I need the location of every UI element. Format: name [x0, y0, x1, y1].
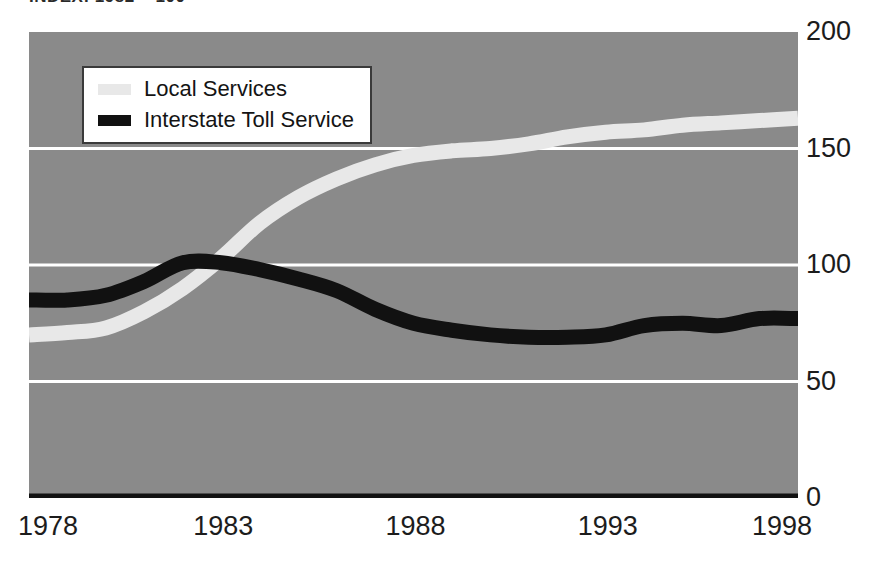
legend-item-interstate-toll-service: Interstate Toll Service — [98, 107, 354, 133]
y-tick-label-50: 50 — [806, 368, 836, 395]
series-line-interstate-toll-service — [29, 261, 798, 338]
legend-label-interstate-toll-service: Interstate Toll Service — [144, 109, 354, 131]
legend-swatch-interstate-toll-service — [98, 115, 131, 126]
y-tick-label-0: 0 — [806, 484, 821, 511]
x-tick-label-1993: 1993 — [578, 513, 638, 540]
x-axis-labels: 19781983198819931998 — [0, 513, 880, 553]
y-tick-label-200: 200 — [806, 18, 851, 45]
x-tick-label-1978: 1978 — [18, 513, 78, 540]
x-tick-label-1988: 1988 — [386, 513, 446, 540]
y-tick-label-100: 100 — [806, 251, 851, 278]
legend-item-local-services: Local Services — [98, 76, 354, 102]
series-group — [29, 118, 798, 337]
x-tick-label-1983: 1983 — [193, 513, 253, 540]
y-tick-label-150: 150 — [806, 135, 851, 162]
series-line-local-services — [29, 118, 798, 335]
chart-title: INDEX: 1982 = 100 — [29, 0, 185, 7]
chart-legend: Local Services Interstate Toll Service — [82, 66, 372, 144]
y-axis-labels: 200150100500 — [806, 0, 880, 561]
x-tick-label-1998: 1998 — [752, 513, 812, 540]
legend-label-local-services: Local Services — [144, 78, 287, 100]
legend-swatch-local-services — [98, 84, 131, 95]
